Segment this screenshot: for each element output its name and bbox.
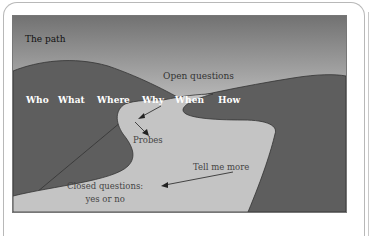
frame-edge	[368, 12, 369, 236]
question-word-why: Why	[142, 95, 164, 105]
question-word-how: How	[218, 95, 240, 105]
open-questions-label: Open questions	[163, 71, 234, 81]
closed-questions-line2: yes or no	[67, 193, 143, 206]
question-word-when: When	[175, 95, 204, 105]
diagram-title: The path	[25, 34, 66, 44]
question-word-where: Where	[97, 95, 130, 105]
question-word-what: What	[58, 95, 85, 105]
tell-me-more-label: Tell me more	[193, 162, 249, 172]
path-diagram: The path Open questions Who What Where W…	[12, 15, 347, 213]
question-word-who: Who	[26, 95, 49, 105]
closed-questions-line1: Closed questions:	[67, 180, 143, 193]
probes-label: Probes	[133, 135, 163, 145]
closed-questions-label: Closed questions: yes or no	[67, 180, 143, 206]
path-illustration	[13, 16, 346, 212]
